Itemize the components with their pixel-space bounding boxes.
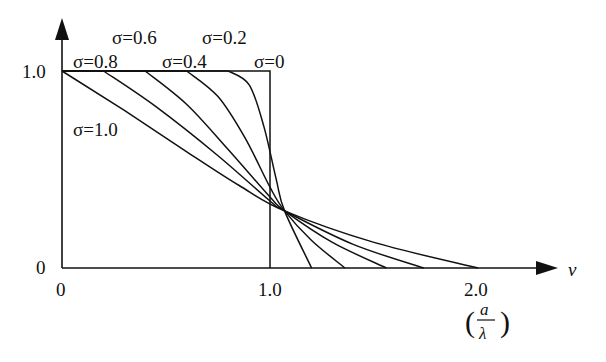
series-line-sigma-0.8	[62, 71, 424, 268]
paren-right: )	[500, 305, 510, 339]
paren-left: (	[465, 305, 475, 339]
y-axis-arrow-icon	[55, 18, 69, 40]
series-line-sigma-0	[62, 71, 270, 268]
unit-denominator: λ	[478, 324, 486, 343]
curves	[62, 71, 478, 268]
y-tick-label: 1.0	[22, 61, 46, 82]
x-axis-unit: ( ) a λ	[465, 300, 510, 343]
annotation-sigma-0.2: σ=0.2	[202, 27, 247, 48]
annotation-sigma-0: σ=0	[254, 51, 284, 72]
x-tick-label: 2.0	[464, 279, 488, 300]
chart: 1.0 0 0 1.0 2.0 v ( ) a λ σ=0.6 σ=0.2 σ=…	[0, 0, 606, 362]
x-axis-arrow-icon	[536, 261, 558, 275]
labels: 1.0 0 0 1.0 2.0 v ( ) a λ σ=0.6 σ=0.2 σ=…	[22, 27, 577, 343]
annotation-sigma-0.4: σ=0.4	[162, 51, 207, 72]
x-tick-label: 1.0	[258, 279, 282, 300]
annotation-sigma-1.0: σ=1.0	[73, 119, 118, 140]
series-line-sigma-0.4	[62, 71, 345, 268]
series-line-sigma-0.6	[62, 71, 386, 268]
series-line-sigma-0.2	[62, 71, 312, 268]
annotation-sigma-0.8: σ=0.8	[73, 51, 118, 72]
annotation-sigma-0.6: σ=0.6	[112, 27, 157, 48]
unit-numerator: a	[480, 300, 489, 319]
x-tick-label: 0	[56, 279, 66, 300]
y-tick-label: 0	[36, 257, 46, 278]
x-axis-label: v	[568, 259, 577, 280]
